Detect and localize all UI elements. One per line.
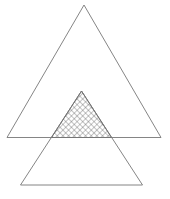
triangles-diagram (0, 0, 170, 199)
intersection-crosshatch (52, 91, 112, 138)
